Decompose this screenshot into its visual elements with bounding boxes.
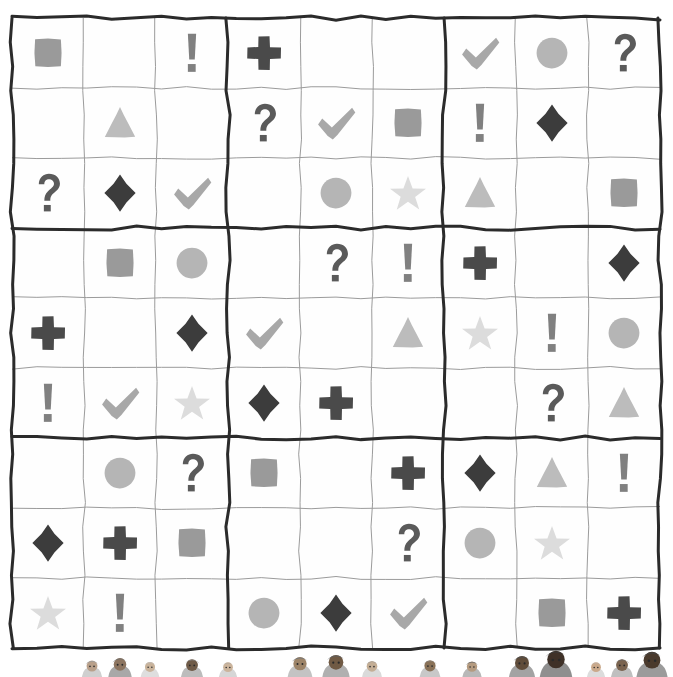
sudoku-cell-r7c8[interactable] <box>516 438 588 508</box>
sudoku-cell-r7c6[interactable] <box>372 438 444 508</box>
sudoku-cell-r2c7[interactable] <box>444 88 516 158</box>
sudoku-cell-r2c2[interactable] <box>84 88 156 158</box>
sudoku-cell-r6c2[interactable] <box>84 368 156 438</box>
figure-9 <box>420 660 441 677</box>
sudoku-cell-r3c2[interactable] <box>84 158 156 228</box>
sudoku-cell-r2c6[interactable] <box>372 88 444 158</box>
exclamation-mark-symbol <box>444 88 516 158</box>
sudoku-cell-r8c2[interactable] <box>84 508 156 578</box>
empty-cell <box>444 578 516 648</box>
sudoku-cell-r8c7[interactable] <box>444 508 516 578</box>
exclamation-mark-symbol <box>84 578 156 648</box>
triangle-symbol <box>372 298 444 368</box>
sudoku-cell-r9c8[interactable] <box>516 578 588 648</box>
sudoku-cell-r3c7[interactable] <box>444 158 516 228</box>
sudoku-cell-r1c2[interactable] <box>84 18 156 88</box>
sudoku-cell-r6c7[interactable] <box>444 368 516 438</box>
sudoku-cell-r9c2[interactable] <box>84 578 156 648</box>
sudoku-cell-r7c1[interactable] <box>12 438 84 508</box>
sudoku-cell-r2c9[interactable] <box>588 88 660 158</box>
sudoku-cell-r7c4[interactable] <box>228 438 300 508</box>
sudoku-cell-r2c1[interactable] <box>12 88 84 158</box>
sudoku-cell-r2c3[interactable] <box>156 88 228 158</box>
sudoku-cell-r5c5[interactable] <box>300 298 372 368</box>
sudoku-cell-r4c6[interactable] <box>372 228 444 298</box>
sudoku-cell-r6c9[interactable] <box>588 368 660 438</box>
sudoku-cell-r4c5[interactable] <box>300 228 372 298</box>
sudoku-cell-r3c8[interactable] <box>516 158 588 228</box>
sudoku-cell-r7c7[interactable] <box>444 438 516 508</box>
sudoku-cell-r1c7[interactable] <box>444 18 516 88</box>
check-mark-symbol <box>372 578 444 648</box>
sudoku-cell-r2c5[interactable] <box>300 88 372 158</box>
sudoku-cell-r8c1[interactable] <box>12 508 84 578</box>
sudoku-cell-r6c3[interactable] <box>156 368 228 438</box>
sudoku-cell-r3c6[interactable] <box>372 158 444 228</box>
sudoku-cell-r6c5[interactable] <box>300 368 372 438</box>
sudoku-cell-r8c5[interactable] <box>300 508 372 578</box>
sudoku-cell-r5c9[interactable] <box>588 298 660 368</box>
sudoku-cell-r1c3[interactable] <box>156 18 228 88</box>
sudoku-cell-r8c8[interactable] <box>516 508 588 578</box>
cross-symbol <box>84 508 156 578</box>
figure-8 <box>362 661 382 677</box>
star-symbol <box>12 578 84 648</box>
sudoku-cell-r9c9[interactable] <box>588 578 660 648</box>
sudoku-cell-r2c4[interactable] <box>228 88 300 158</box>
sudoku-cell-r8c3[interactable] <box>156 508 228 578</box>
sudoku-cell-r9c7[interactable] <box>444 578 516 648</box>
sudoku-cell-r3c5[interactable] <box>300 158 372 228</box>
sudoku-cell-r6c1[interactable] <box>12 368 84 438</box>
sudoku-cell-r1c4[interactable] <box>228 18 300 88</box>
sudoku-cell-r7c3[interactable] <box>156 438 228 508</box>
sudoku-grid[interactable] <box>12 18 660 648</box>
sudoku-cell-r5c7[interactable] <box>444 298 516 368</box>
sudoku-cell-r1c1[interactable] <box>12 18 84 88</box>
sudoku-cell-r8c4[interactable] <box>228 508 300 578</box>
sudoku-cell-r8c6[interactable] <box>372 508 444 578</box>
sudoku-cell-r5c4[interactable] <box>228 298 300 368</box>
sudoku-cell-r3c4[interactable] <box>228 158 300 228</box>
empty-cell <box>588 508 660 578</box>
sudoku-cell-r4c3[interactable] <box>156 228 228 298</box>
sudoku-cell-r7c5[interactable] <box>300 438 372 508</box>
sudoku-cell-r5c3[interactable] <box>156 298 228 368</box>
sudoku-cell-r1c8[interactable] <box>516 18 588 88</box>
empty-cell <box>300 438 372 508</box>
sudoku-cell-r5c6[interactable] <box>372 298 444 368</box>
star-symbol <box>372 158 444 228</box>
sudoku-cell-r8c9[interactable] <box>588 508 660 578</box>
question-mark-symbol <box>588 18 660 88</box>
sudoku-cell-r3c9[interactable] <box>588 158 660 228</box>
sudoku-cell-r7c2[interactable] <box>84 438 156 508</box>
sudoku-cell-r3c1[interactable] <box>12 158 84 228</box>
sudoku-cell-r5c8[interactable] <box>516 298 588 368</box>
sudoku-cell-r6c6[interactable] <box>372 368 444 438</box>
sudoku-cell-r6c8[interactable] <box>516 368 588 438</box>
sudoku-cell-r6c4[interactable] <box>228 368 300 438</box>
sudoku-cell-r4c9[interactable] <box>588 228 660 298</box>
sudoku-cell-r3c3[interactable] <box>156 158 228 228</box>
sudoku-cell-r1c5[interactable] <box>300 18 372 88</box>
circle-symbol <box>228 578 300 648</box>
sudoku-cell-r9c6[interactable] <box>372 578 444 648</box>
sudoku-cell-r5c2[interactable] <box>84 298 156 368</box>
sudoku-cell-r2c8[interactable] <box>516 88 588 158</box>
sudoku-cell-r4c1[interactable] <box>12 228 84 298</box>
sudoku-cell-r9c4[interactable] <box>228 578 300 648</box>
sudoku-cell-r9c1[interactable] <box>12 578 84 648</box>
sudoku-cell-r4c2[interactable] <box>84 228 156 298</box>
figure-1 <box>82 661 102 677</box>
sudoku-cell-r1c6[interactable] <box>372 18 444 88</box>
sudoku-cell-r4c4[interactable] <box>228 228 300 298</box>
sudoku-cell-r1c9[interactable] <box>588 18 660 88</box>
sudoku-cell-r9c5[interactable] <box>300 578 372 648</box>
sudoku-cell-r7c9[interactable] <box>588 438 660 508</box>
sudoku-cell-r4c7[interactable] <box>444 228 516 298</box>
sudoku-cell-r9c3[interactable] <box>156 578 228 648</box>
exclamation-mark-symbol <box>156 18 228 88</box>
sudoku-cell-r5c1[interactable] <box>12 298 84 368</box>
figure-10 <box>462 661 481 677</box>
sudoku-cell-r4c8[interactable] <box>516 228 588 298</box>
exclamation-mark-symbol <box>516 298 588 368</box>
